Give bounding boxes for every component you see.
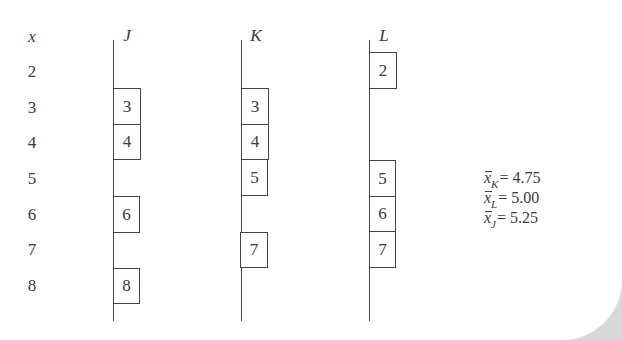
mean-j: xJ= 5.25: [484, 208, 540, 228]
column-k-header: K: [250, 26, 261, 46]
column-k-box: 7: [240, 232, 268, 268]
column-k-box: 3: [241, 88, 269, 125]
column-j-box: 6: [113, 196, 140, 233]
x-value: 3: [28, 98, 37, 118]
column-l-box: 7: [369, 231, 396, 268]
column-l-box: 6: [369, 196, 396, 232]
column-j-box: 4: [113, 124, 141, 160]
x-header: x: [28, 27, 36, 47]
x-value: 4: [28, 133, 37, 153]
x-value: 8: [28, 276, 37, 296]
column-l-box: 5: [369, 160, 396, 197]
column-j-box: 3: [113, 88, 141, 125]
column-j-box: 8: [113, 268, 140, 304]
mean-j-sub: J: [491, 218, 496, 230]
column-l-box: 2: [369, 52, 397, 89]
mean-l: xL= 5.00: [484, 188, 540, 208]
means-block: xK= 4.75 xL= 5.00 xJ= 5.25: [484, 168, 540, 228]
mean-k: xK= 4.75: [484, 168, 540, 188]
diagram-page: x 2 3 4 5 6 7 8 J 3 4 6 8 K 3 4 5 7 L 2 …: [0, 0, 622, 340]
mean-k-value: = 4.75: [499, 169, 540, 186]
x-value: 6: [28, 205, 37, 225]
mean-j-value: = 5.25: [497, 209, 538, 226]
column-k-box: 4: [241, 124, 269, 160]
mean-l-value: = 5.00: [498, 189, 539, 206]
column-j-header: J: [123, 26, 131, 46]
x-value: 2: [28, 62, 37, 82]
column-k-box: 5: [241, 159, 268, 196]
x-value: 7: [28, 240, 37, 260]
x-value: 5: [28, 169, 37, 189]
column-l-header: L: [379, 26, 388, 46]
